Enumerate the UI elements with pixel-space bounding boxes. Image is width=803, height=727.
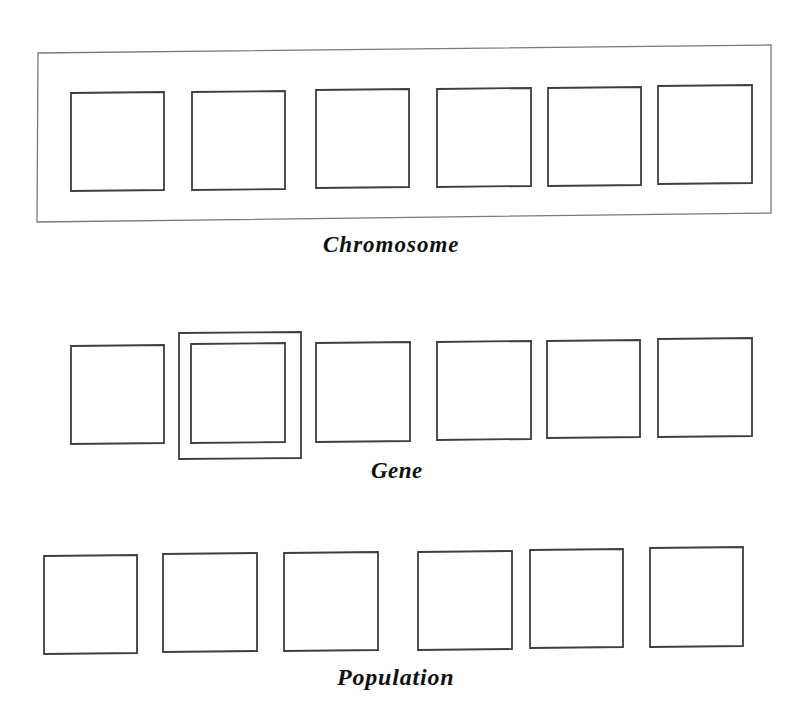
individual-box-4 bbox=[418, 551, 512, 650]
gene-box-3 bbox=[316, 342, 410, 442]
gene-box-1 bbox=[71, 92, 164, 191]
gene-section bbox=[71, 332, 752, 459]
selected-gene-highlight bbox=[179, 332, 301, 459]
gene-box-6 bbox=[658, 338, 752, 437]
individual-box-1 bbox=[44, 555, 137, 654]
gene-box-2 bbox=[191, 343, 285, 443]
gene-box-2 bbox=[192, 91, 285, 190]
diagram-canvas: Chromosome Gene Population bbox=[0, 0, 803, 727]
individual-box-2 bbox=[163, 553, 257, 652]
chromosome-label: Chromosome bbox=[323, 232, 460, 258]
gene-box-5 bbox=[548, 87, 641, 186]
gene-box-3 bbox=[316, 89, 409, 188]
gene-box-6 bbox=[658, 85, 752, 184]
individual-box-5 bbox=[530, 549, 623, 648]
gene-box-1 bbox=[71, 345, 164, 444]
gene-box-5 bbox=[547, 340, 640, 438]
gene-box-4 bbox=[437, 341, 531, 440]
chromosome-section bbox=[37, 45, 771, 222]
gene-box-4 bbox=[437, 88, 531, 187]
gene-label: Gene bbox=[371, 458, 423, 484]
population-section bbox=[44, 547, 743, 654]
hierarchy-diagram bbox=[0, 0, 803, 727]
individual-box-3 bbox=[284, 552, 378, 651]
chromosome-frame bbox=[37, 45, 771, 222]
population-label: Population bbox=[337, 664, 454, 691]
individual-box-6 bbox=[650, 547, 743, 647]
